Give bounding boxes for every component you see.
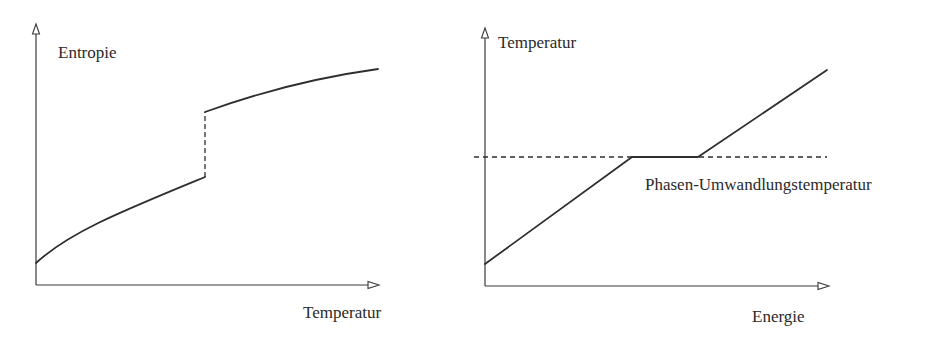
phase-transition-label: Phasen-Umwandlungstemperatur — [645, 175, 872, 194]
entropy-temperature-chart: Entropie Temperatur — [33, 24, 382, 322]
left-y-arrow-icon — [33, 24, 40, 34]
right-y-label: Temperatur — [498, 33, 576, 52]
temperature-energy-chart: Temperatur Energie Phasen-Umwandlungstem… — [474, 28, 872, 326]
right-x-label: Energie — [752, 307, 805, 326]
entropy-curve-lower — [36, 177, 205, 263]
left-x-label: Temperatur — [303, 303, 381, 322]
left-x-arrow-icon — [368, 282, 379, 289]
right-x-arrow-icon — [818, 283, 829, 290]
diagram-canvas: Entropie Temperatur Temperatur Energie P… — [0, 0, 938, 339]
right-y-arrow-icon — [482, 28, 489, 38]
left-y-label: Entropie — [58, 43, 117, 62]
temperature-line — [485, 70, 827, 264]
entropy-curve-upper — [205, 69, 378, 112]
